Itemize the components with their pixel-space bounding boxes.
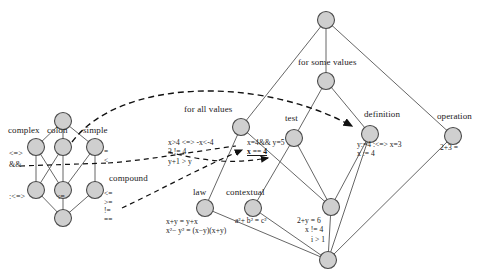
formula-block-conditional: 2+y = 6 x != 4 i > 1 — [297, 216, 325, 244]
concept-node-conditional — [323, 199, 340, 216]
concept-node-for-some — [318, 73, 335, 90]
formula-test-2: x == 4 — [247, 147, 284, 156]
concept-node-operation — [445, 128, 462, 145]
formula-block-contextual: a²+ b² = c² — [235, 216, 267, 225]
left-lattice-edges — [36, 121, 95, 218]
concept-node-law — [197, 200, 214, 217]
concept-node-right-bottom — [320, 252, 337, 269]
concept-label-law: law — [193, 188, 206, 197]
formula-for-all-1: x>4 <=> -x<-4 — [168, 138, 213, 147]
concept-node-complex — [28, 139, 45, 156]
attribute-label-assign: := — [58, 193, 65, 201]
attribute-label-and: && — [9, 161, 22, 169]
formula-block-law: x+y = y+x x²− y² = (x−y)(x+y) — [166, 217, 226, 236]
formula-definition-2: x := 4 — [357, 149, 402, 158]
operator-eqeq: == — [104, 216, 112, 225]
concept-node-colon — [55, 139, 72, 156]
concept-label-contextual: contextual — [226, 188, 265, 197]
operator-lt: < — [104, 157, 108, 166]
operator-stack-simple: = < — [104, 148, 108, 165]
concept-label-complex: complex — [8, 126, 40, 135]
operator-stack-compound: <= >= != == — [104, 190, 112, 225]
concept-node-test — [286, 130, 303, 147]
right-lattice-nodes — [197, 12, 462, 269]
concept-node-compound — [87, 182, 104, 199]
concept-label-operation: operation — [437, 112, 472, 121]
concept-label-definition: definition — [364, 110, 400, 119]
concept-label-compound: compound — [109, 174, 148, 183]
formula-conditional-2: x != 4 — [297, 225, 325, 234]
lattice-graphics — [0, 0, 495, 274]
concept-node-contextual — [245, 200, 262, 217]
attribute-label-iff: <=> — [9, 150, 23, 158]
attribute-label-defined-iff: :<=> — [9, 193, 25, 201]
formula-law-1: x+y = y+x — [166, 217, 226, 226]
concept-label-colon: colon — [47, 126, 68, 135]
concept-node-right-top — [318, 12, 335, 29]
concept-label-for-all-values: for all values — [184, 105, 232, 114]
formula-definition-1: y:=4 :<=> x=3 — [357, 140, 402, 149]
formula-conditional-1: 2+y = 6 — [297, 216, 325, 225]
formula-block-for-all-values: x>4 <=> -x<-4 3 != 4 y+1 > y — [168, 138, 213, 166]
formula-block-definition: y:=4 :<=> x=3 x := 4 — [357, 140, 402, 159]
formula-test-1: x=4&& y=5 — [247, 138, 284, 147]
concept-node-simple — [87, 139, 104, 156]
formula-for-all-3: y+1 > y — [168, 157, 213, 166]
formula-law-2: x²− y² = (x−y)(x+y) — [166, 226, 226, 235]
concept-label-test: test — [285, 114, 298, 123]
formula-operation-1: 2+3 = — [440, 143, 458, 152]
concept-node-left-mid-1 — [28, 182, 45, 199]
formula-block-test: x=4&& y=5 x == 4 — [247, 138, 284, 157]
formula-contextual-1: a²+ b² = c² — [235, 216, 267, 225]
concept-label-simple: simple — [83, 126, 108, 135]
concept-label-for-some-values: for some values — [298, 58, 356, 67]
concept-node-left-bottom — [55, 210, 72, 227]
formula-block-operation: 2+3 = — [440, 143, 458, 152]
formula-for-all-2: 3 != 4 — [168, 147, 213, 156]
formula-conditional-3: i > 1 — [297, 235, 325, 244]
diagram-canvas: complex colon simple compound <=> && :<=… — [0, 0, 495, 274]
concept-node-for-all — [233, 119, 250, 136]
